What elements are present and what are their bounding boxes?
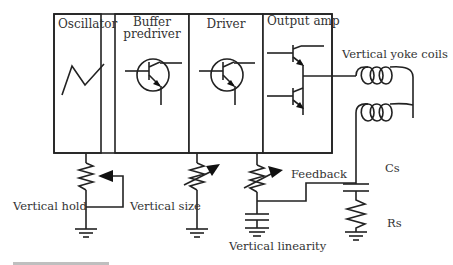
vertical-hold-label: Vertical hold bbox=[12, 199, 87, 213]
driver-label: Driver bbox=[207, 17, 246, 31]
vertical-deflection-circuit-diagram: Oscillator Buffer predriver Driver Outpu… bbox=[0, 0, 453, 265]
vertical-size-rheostat-icon bbox=[184, 153, 220, 237]
cs-label: Cs bbox=[385, 161, 400, 175]
yoke-coils-label: Vertical yoke coils bbox=[341, 47, 448, 61]
oscillator-label: Oscillator bbox=[58, 17, 117, 31]
vertical-hold-pot-icon bbox=[75, 153, 123, 237]
oscillator-block bbox=[54, 14, 101, 153]
output-amp-block bbox=[263, 14, 332, 153]
rs-label: Rs bbox=[387, 216, 402, 230]
feedback-label: Feedback bbox=[291, 167, 348, 181]
predriver-label: predriver bbox=[123, 27, 181, 41]
rs-resistor-icon bbox=[345, 197, 367, 240]
block-row bbox=[54, 14, 332, 153]
vertical-linearity-label: Vertical linearity bbox=[228, 239, 327, 253]
vertical-linearity-rheostat-icon bbox=[244, 153, 283, 236]
feedback-wire bbox=[257, 183, 356, 201]
output-amp-label: Output amp bbox=[267, 14, 340, 28]
driver-block bbox=[189, 14, 263, 153]
vertical-size-label: Vertical size bbox=[129, 199, 201, 213]
cs-capacitor-icon bbox=[343, 184, 369, 197]
